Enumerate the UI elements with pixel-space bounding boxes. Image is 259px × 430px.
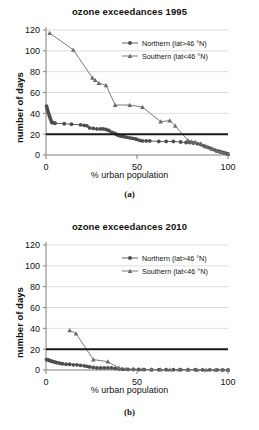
data-point (91, 365, 95, 369)
y-tick-label: 120 (25, 25, 40, 35)
legend-label: Southern (lat<46 °N) (142, 52, 208, 61)
y-tick-label: 80 (30, 282, 40, 292)
data-point (88, 365, 92, 369)
data-point (95, 366, 99, 370)
figure-panel-a: ozone exceedances 1995 number of days 02… (0, 0, 259, 215)
y-tick-label: 100 (25, 261, 40, 271)
data-point (74, 331, 79, 335)
y-tick-label: 60 (30, 88, 40, 98)
data-point (141, 139, 145, 143)
data-point (95, 127, 99, 131)
y-tick-label: 100 (25, 46, 40, 56)
figure-caption-a: (a) (0, 189, 259, 199)
data-point (99, 366, 103, 370)
y-tick-label: 20 (30, 130, 40, 140)
data-point (64, 362, 68, 366)
data-point (91, 127, 95, 131)
legend-marker (128, 41, 132, 45)
y-tick-label: 40 (30, 324, 40, 334)
y-tick-label: 0 (35, 365, 40, 375)
data-point (179, 140, 183, 144)
data-point (79, 123, 83, 127)
y-tick-label: 20 (30, 345, 40, 355)
data-point (164, 140, 168, 144)
plot-area-a: 020406080100120050100Northern (lat>46 °N… (0, 0, 259, 215)
data-point (62, 122, 66, 126)
figure-caption-b: (b) (0, 407, 259, 417)
y-tick-label: 40 (30, 109, 40, 119)
data-point (53, 121, 57, 125)
data-point (68, 362, 72, 366)
legend-label: Northern (lat>46 °N) (142, 39, 207, 48)
data-point (70, 122, 74, 126)
data-point (102, 366, 106, 370)
data-point (172, 140, 176, 144)
plot-area-b: 020406080100120050100Northern (lat>46 °N… (0, 215, 259, 430)
data-point (71, 363, 75, 367)
figure-panel-b: ozone exceedances 2010 number of days 02… (0, 215, 259, 430)
data-point (79, 363, 83, 367)
data-point (60, 362, 64, 366)
legend-label: Northern (lat>46 °N) (142, 254, 207, 263)
y-tick-label: 80 (30, 67, 40, 77)
data-point (88, 126, 92, 130)
legend-marker (128, 256, 132, 260)
data-point (110, 366, 114, 370)
data-point (144, 139, 148, 143)
y-tick-label: 0 (35, 150, 40, 160)
x-axis-label-a: % urban population (0, 170, 259, 180)
data-point (75, 363, 79, 367)
y-tick-label: 120 (25, 240, 40, 250)
data-point (67, 328, 72, 332)
x-axis-label-b: % urban population (0, 385, 259, 395)
data-point (106, 366, 110, 370)
data-point (157, 140, 161, 144)
y-tick-label: 60 (30, 303, 40, 313)
legend-label: Southern (lat<46 °N) (142, 267, 208, 276)
data-point (47, 31, 52, 35)
data-point (148, 139, 152, 143)
